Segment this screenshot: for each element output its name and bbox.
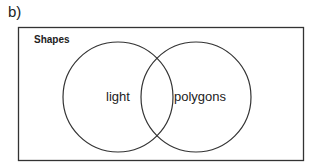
set-label-polygons: polygons	[174, 89, 227, 104]
set-label-light: light	[106, 89, 130, 104]
venn-diagram: Shapes light polygons	[0, 0, 321, 168]
universe-label: Shapes	[34, 34, 70, 45]
universe-rectangle	[19, 28, 304, 161]
